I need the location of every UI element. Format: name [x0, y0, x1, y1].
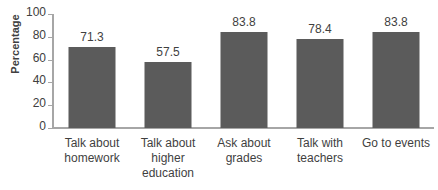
bar[interactable]: [145, 62, 192, 128]
x-axis-category-line: Talk about: [130, 136, 206, 151]
x-axis-category-label: Talk abouthomework: [54, 136, 130, 166]
y-axis-tick-label: 80: [16, 29, 46, 41]
x-axis-category-label: Talk withteachers: [282, 136, 358, 166]
x-axis-categories: Talk abouthomeworkTalk abouthighereducat…: [54, 136, 434, 188]
bar-chart: Percentage 020406080100 71.357.583.878.4…: [0, 0, 438, 190]
bar-value-label: 83.8: [232, 16, 255, 28]
bar-value-label: 83.8: [384, 16, 407, 28]
x-axis-category-line: Talk with: [282, 136, 358, 151]
bar-value-label: 57.5: [156, 46, 179, 58]
x-axis-category-line: Ask about: [206, 136, 282, 151]
plot-area: 71.357.583.878.483.8: [54, 14, 434, 128]
bar-group: 78.4: [282, 14, 358, 128]
x-axis-category-label: Go to events: [358, 136, 434, 151]
bar-value-label: 71.3: [80, 31, 103, 43]
x-axis-category-line: teachers: [282, 151, 358, 166]
y-axis-tick-mark: [48, 14, 53, 15]
y-axis-tick-mark: [48, 128, 53, 129]
x-axis-category-line: grades: [206, 151, 282, 166]
y-axis-tick-mark: [48, 60, 53, 61]
bar[interactable]: [221, 32, 268, 128]
bar[interactable]: [373, 32, 420, 128]
x-axis-category-line: Go to events: [358, 136, 434, 151]
x-axis-category-label: Ask aboutgrades: [206, 136, 282, 166]
x-axis-category-line: higher: [130, 151, 206, 166]
bar-group: 57.5: [130, 14, 206, 128]
bar[interactable]: [297, 39, 344, 128]
y-axis-tick-label: 60: [16, 52, 46, 64]
y-axis-tick-mark: [48, 82, 53, 83]
bar-group: 71.3: [54, 14, 130, 128]
bar-group: 83.8: [206, 14, 282, 128]
y-axis-tick-label: 100: [16, 6, 46, 18]
bar-group: 83.8: [358, 14, 434, 128]
y-axis-tick-mark: [48, 105, 53, 106]
x-axis-category-line: Talk about: [54, 136, 130, 151]
bar-value-label: 78.4: [308, 23, 331, 35]
y-axis-tick-mark: [48, 37, 53, 38]
x-axis-category-line: education: [130, 166, 206, 181]
y-axis-tick-label: 20: [16, 97, 46, 109]
y-axis-tick-label: 0: [16, 120, 46, 132]
x-axis-category-line: homework: [54, 151, 130, 166]
bar[interactable]: [69, 47, 116, 128]
y-axis-tick-label: 40: [16, 74, 46, 86]
x-axis-category-label: Talk abouthighereducation: [130, 136, 206, 181]
y-axis-tick-labels: 020406080100: [16, 12, 46, 128]
